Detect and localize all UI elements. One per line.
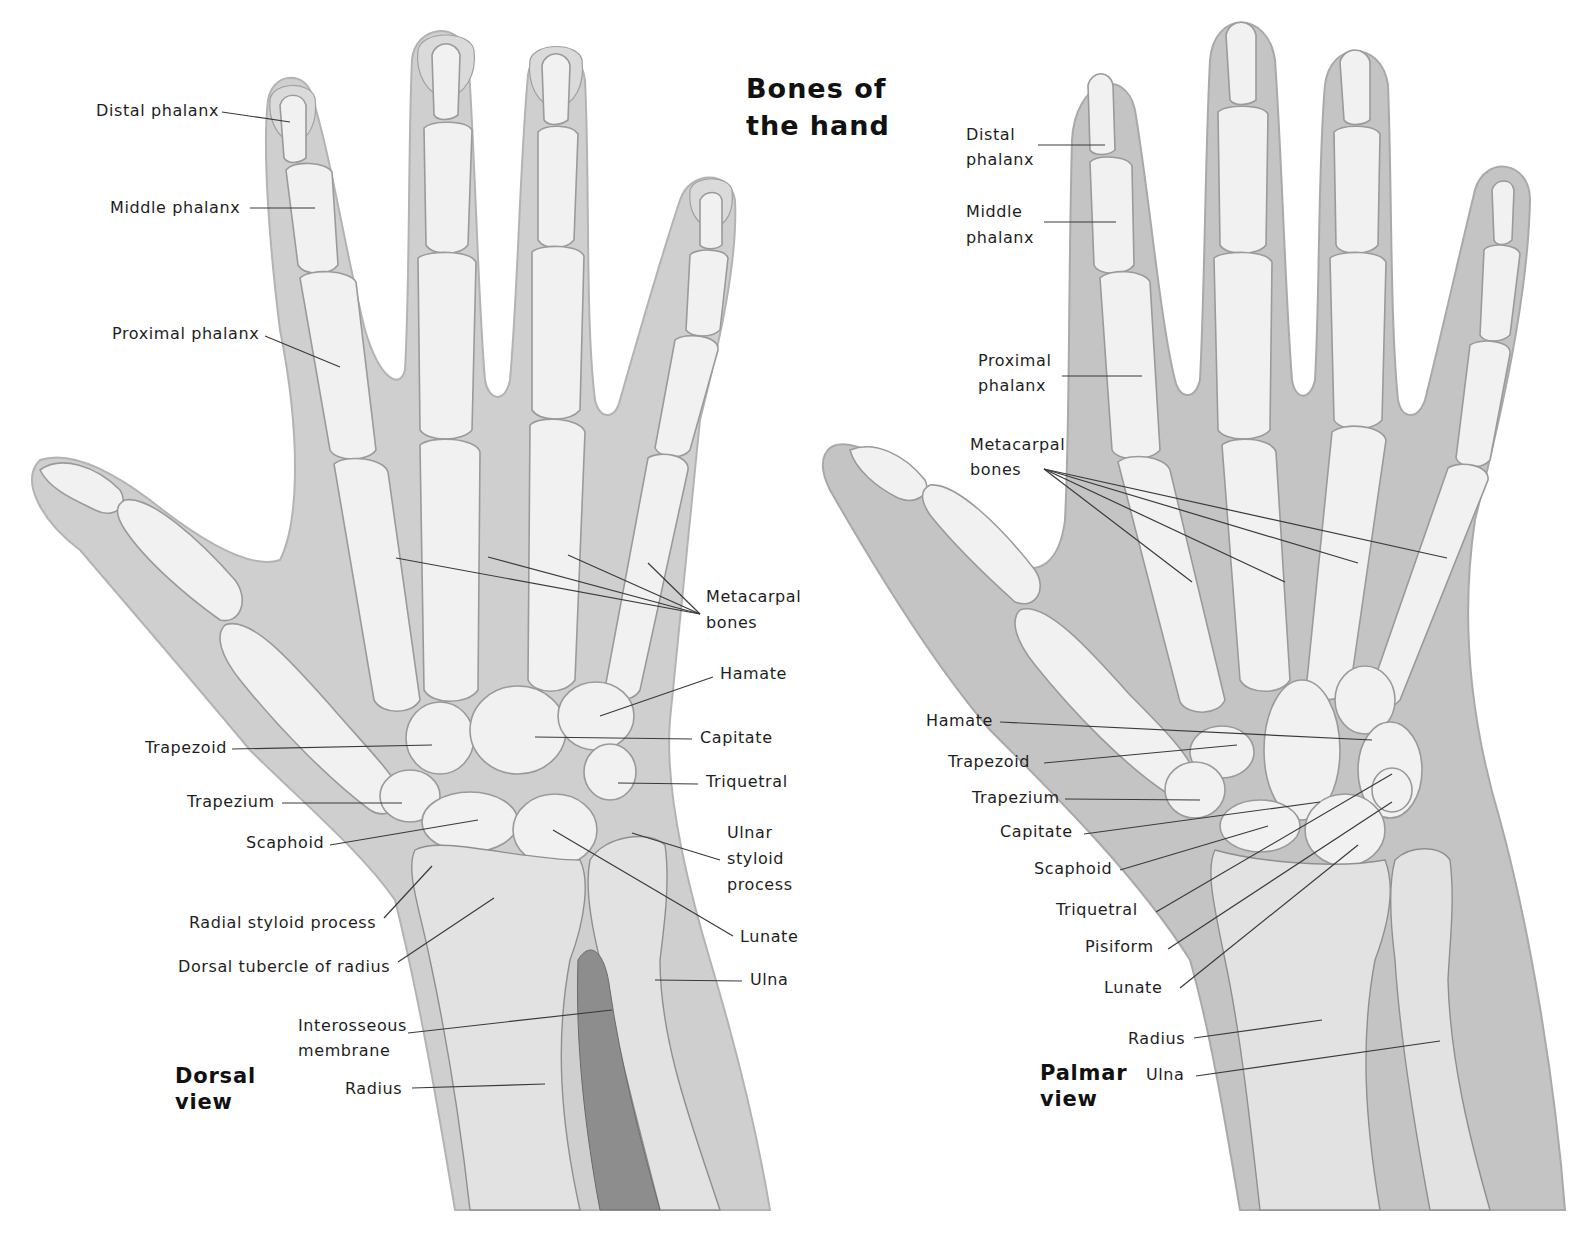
label-palmar-ulna: Ulna (1146, 1065, 1185, 1084)
label-palmar-trapezoid: Trapezoid (947, 752, 1030, 771)
label-palmar-proximal-phalanx-line1: Proximal (978, 351, 1051, 370)
label-dorsal-trapezium: Trapezium (186, 792, 275, 811)
label-palmar-radius: Radius (1128, 1029, 1185, 1048)
label-palmar-middle-phalanx-line2: phalanx (966, 228, 1034, 247)
dorsal-finger4-distal (542, 54, 570, 125)
diagram-title: Bones of the hand (746, 73, 890, 141)
dorsal-capitate-bone (470, 686, 566, 774)
label-palmar-capitate: Capitate (1000, 822, 1073, 841)
label-dorsal-triquetral: Triquetral (705, 772, 788, 791)
label-palmar-hamate: Hamate (926, 711, 993, 730)
label-dorsal-distal-phalanx: Distal phalanx (96, 101, 219, 120)
label-dorsal-capitate: Capitate (700, 728, 773, 747)
label-dorsal-proximal-phalanx: Proximal phalanx (112, 324, 259, 343)
palmar-finger5-distal (1492, 181, 1514, 245)
palmar-view-title-line1: Palmar (1040, 1061, 1127, 1085)
label-dorsal-hamate: Hamate (720, 664, 787, 683)
dorsal-view-title-line2: view (175, 1090, 233, 1114)
palmar-finger2-middle (1090, 157, 1134, 273)
palmar-finger4-middle (1334, 126, 1380, 253)
dorsal-finger3-middle (424, 122, 472, 253)
dorsal-finger4-metacarpal (528, 419, 585, 691)
label-dorsal-metacarpal-line2: bones (706, 613, 757, 632)
palmar-finger4-proximal (1330, 252, 1386, 429)
dorsal-trapezoid-bone (406, 702, 474, 774)
label-dorsal-dorsal-tubercle: Dorsal tubercle of radius (178, 957, 390, 976)
label-dorsal-interosseous-line1: Interosseous (298, 1016, 407, 1035)
dorsal-finger3-proximal (418, 252, 476, 439)
label-dorsal-radius: Radius (345, 1079, 402, 1098)
label-palmar-scaphoid: Scaphoid (1034, 859, 1112, 878)
dorsal-triquetral-bone (584, 744, 636, 800)
label-palmar-distal-phalanx-line1: Distal (966, 125, 1015, 144)
label-dorsal-lunate: Lunate (740, 927, 798, 946)
label-palmar-distal-phalanx-line2: phalanx (966, 150, 1034, 169)
dorsal-finger4-middle (538, 126, 578, 247)
label-dorsal-scaphoid: Scaphoid (246, 833, 324, 852)
palmar-scaphoid-bone (1220, 800, 1300, 852)
label-palmar-proximal-phalanx-line2: phalanx (978, 376, 1046, 395)
palmar-view-title-line2: view (1040, 1087, 1098, 1111)
palmar-trapezium-bone (1165, 762, 1225, 818)
dorsal-hamate-bone (558, 682, 634, 750)
title-line-1: Bones of (746, 73, 886, 104)
label-palmar-metacarpal-line1: Metacarpal (970, 435, 1065, 454)
dorsal-scaphoid-bone (422, 792, 518, 852)
label-palmar-triquetral: Triquetral (1055, 900, 1138, 919)
palmar-finger3-middle (1218, 106, 1268, 253)
label-palmar-metacarpal-line2: bones (970, 460, 1021, 479)
label-dorsal-ulnar-styloid-line2: styloid (727, 849, 784, 868)
label-dorsal-metacarpal-line1: Metacarpal (706, 587, 801, 606)
bones-of-hand-diagram: Bones of the hand (0, 0, 1581, 1233)
label-palmar-middle-phalanx-line1: Middle (966, 202, 1022, 221)
label-dorsal-ulna: Ulna (750, 970, 789, 989)
label-dorsal-radial-styloid: Radial styloid process (189, 913, 376, 932)
palmar-finger3-distal (1226, 22, 1256, 104)
label-palmar-lunate: Lunate (1104, 978, 1162, 997)
palmar-finger2-distal (1088, 74, 1115, 155)
palmar-finger4-distal (1340, 50, 1370, 125)
dorsal-finger2-distal (280, 95, 306, 162)
label-dorsal-middle-phalanx: Middle phalanx (110, 198, 240, 217)
label-dorsal-ulnar-styloid-line1: Ulnar (727, 823, 773, 842)
label-dorsal-trapezoid: Trapezoid (144, 738, 227, 757)
dorsal-finger5-distal (700, 193, 722, 249)
palmar-hand-illustration (823, 22, 1565, 1210)
dorsal-view-title-line1: Dorsal (175, 1064, 256, 1088)
palmar-finger3-proximal (1214, 252, 1272, 439)
label-palmar-trapezium: Trapezium (971, 788, 1060, 807)
label-palmar-pisiform: Pisiform (1085, 937, 1154, 956)
title-line-2: the hand (746, 110, 890, 141)
label-dorsal-interosseous-line2: membrane (298, 1041, 390, 1060)
label-dorsal-ulnar-styloid-line3: process (727, 875, 793, 894)
dorsal-finger4-proximal (532, 246, 584, 419)
dorsal-finger3-metacarpal (420, 439, 480, 701)
dorsal-finger3-distal (432, 44, 460, 120)
